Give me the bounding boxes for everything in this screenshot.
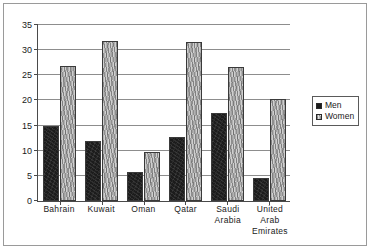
bar-group [39, 25, 81, 201]
x-axis-label-united-arab-emirates: UnitedArabEmirates [249, 204, 291, 237]
chart-legend: Men Women [312, 96, 359, 126]
y-tick-label: 10 [22, 146, 32, 155]
y-tick-label: 0 [27, 197, 32, 206]
y-tick-mark [34, 49, 38, 50]
legend-label-women: Women [325, 111, 354, 122]
bar-men-bahrain [43, 126, 59, 201]
bar-women-qatar [186, 42, 202, 201]
legend-label-men: Men [325, 100, 342, 111]
bar-women-united-arab-emirates [270, 99, 286, 201]
x-axis-label-kuwait: Kuwait [80, 204, 122, 237]
bar-group [81, 25, 123, 201]
y-tick-mark [34, 99, 38, 100]
y-tick-label: 20 [22, 96, 32, 105]
legend-item-women: Women [316, 111, 354, 122]
chart-frame: 05101520253035 BahrainKuwaitOmanQatarSau… [3, 3, 367, 246]
x-axis-labels: BahrainKuwaitOmanQatarSaudiArabiaUnitedA… [38, 204, 291, 237]
bar-group [164, 25, 206, 201]
bar-men-united-arab-emirates [253, 178, 269, 201]
chart-screenshot: 05101520253035 BahrainKuwaitOmanQatarSau… [0, 0, 372, 251]
bar-men-qatar [169, 137, 185, 201]
men-swatch-icon [316, 103, 322, 109]
bar-women-kuwait [102, 41, 118, 201]
bar-group [248, 25, 290, 201]
x-axis-label-saudi-arabia: SaudiArabia [207, 204, 249, 237]
bar-groups [39, 25, 290, 201]
bar-men-oman [127, 172, 143, 201]
y-tick-mark [34, 125, 38, 126]
bar-women-oman [144, 152, 160, 201]
x-axis-label-qatar: Qatar [165, 204, 207, 237]
y-tick-label: 25 [22, 71, 32, 80]
bar-group [206, 25, 248, 201]
x-axis-label-bahrain: Bahrain [38, 204, 80, 237]
bar-group [123, 25, 165, 201]
plot-area: 05101520253035 [37, 25, 290, 202]
y-tick-mark [34, 74, 38, 75]
legend-item-men: Men [316, 100, 354, 111]
bar-men-kuwait [85, 141, 101, 201]
y-tick-mark [34, 200, 38, 201]
y-tick-label: 5 [27, 171, 32, 180]
y-tick-mark [34, 150, 38, 151]
y-tick-mark [34, 24, 38, 25]
women-swatch-icon [316, 114, 322, 120]
bar-men-saudi-arabia [211, 113, 227, 202]
x-axis-label-oman: Oman [122, 204, 164, 237]
y-tick-label: 35 [22, 21, 32, 30]
bar-women-saudi-arabia [228, 67, 244, 201]
y-tick-label: 15 [22, 121, 32, 130]
y-tick-label: 30 [22, 46, 32, 55]
y-tick-mark [34, 175, 38, 176]
bar-women-bahrain [60, 66, 76, 201]
